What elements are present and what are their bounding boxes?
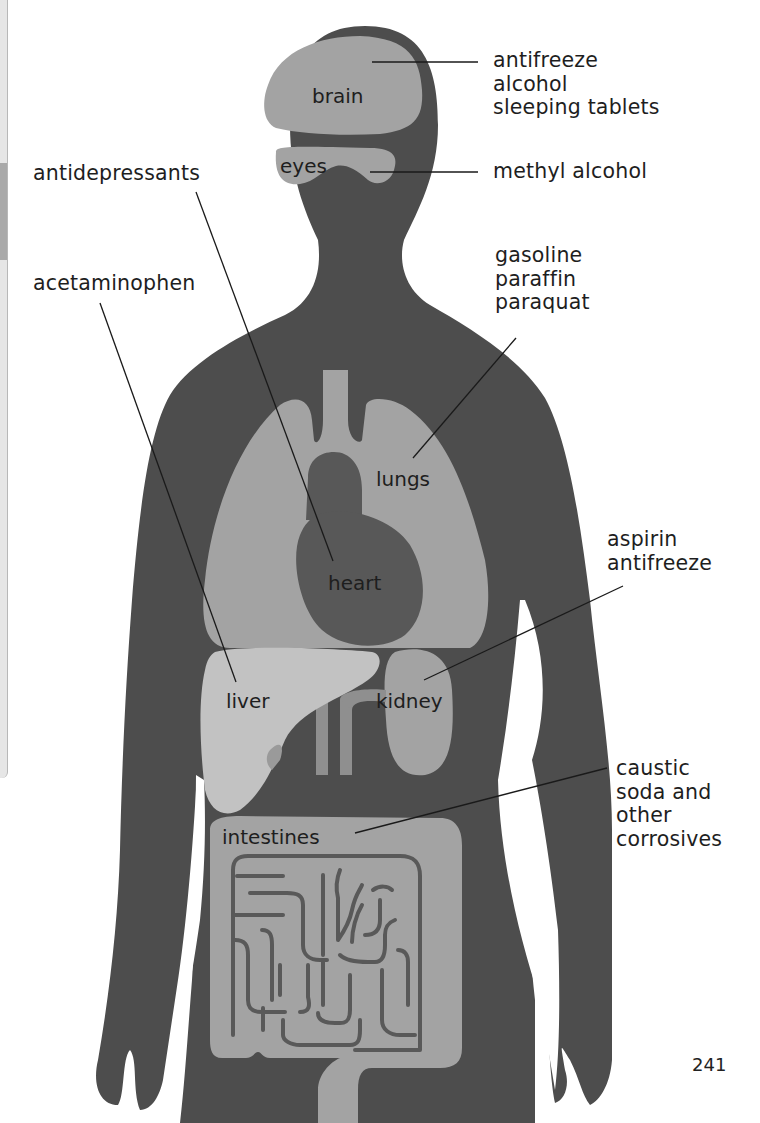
poison-item: antidepressants <box>33 162 200 186</box>
poison-item: caustic <box>616 757 722 781</box>
callout-eyes-poisons: methyl alcohol <box>493 160 647 184</box>
poison-item: alcohol <box>493 73 660 97</box>
poison-item: methyl alcohol <box>493 160 647 184</box>
poison-item: other <box>616 804 722 828</box>
poison-item: sleeping tablets <box>493 96 660 120</box>
poison-item: antifreeze <box>493 49 660 73</box>
poison-item: gasoline <box>495 244 590 268</box>
callout-brain-poisons: antifreeze alcohol sleeping tablets <box>493 49 660 120</box>
vessel-left <box>316 700 328 775</box>
organ-label-brain: brain <box>312 84 363 108</box>
poison-item: antifreeze <box>607 552 712 576</box>
poison-item: soda and <box>616 781 722 805</box>
callout-liver-poisons: acetaminophen <box>33 272 195 296</box>
callout-intestines-poisons: caustic soda and other corrosives <box>616 757 722 851</box>
poison-item: aspirin <box>607 528 712 552</box>
poison-item: corrosives <box>616 828 722 852</box>
organ-label-intestines: intestines <box>222 825 320 849</box>
organ-label-kidney: kidney <box>376 689 443 713</box>
callout-heart-poisons: antidepressants <box>33 162 200 186</box>
organ-label-heart: heart <box>328 571 381 595</box>
organ-label-liver: liver <box>226 689 269 713</box>
callout-kidney-poisons: aspirin antifreeze <box>607 528 712 575</box>
vessel-right <box>340 700 352 775</box>
poison-item: paraquat <box>495 291 590 315</box>
organ-label-lungs: lungs <box>376 467 430 491</box>
callout-lungs-poisons: gasoline paraffin paraquat <box>495 244 590 315</box>
page-number: 241 <box>692 1054 726 1075</box>
organ-label-eyes: eyes <box>280 154 327 178</box>
poison-item: acetaminophen <box>33 272 195 296</box>
poison-item: paraffin <box>495 268 590 292</box>
